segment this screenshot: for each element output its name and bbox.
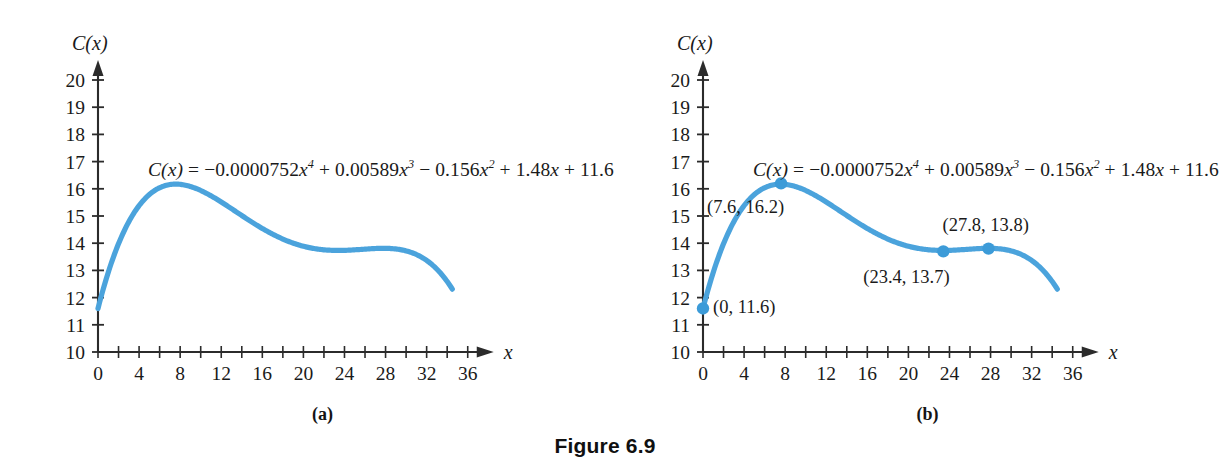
y-tick-label-11: 11 — [671, 315, 690, 336]
data-point-0[interactable] — [697, 302, 709, 314]
panel-caption-a: (a) — [0, 404, 625, 425]
equation-label-a: C(x) = −0.0000752x4 + 0.00589x3 − 0.156x… — [148, 157, 614, 181]
equation-term1-exp-a: 4 — [308, 157, 314, 171]
equation-term4-var-b: x — [1155, 159, 1164, 180]
y-tick-label-13: 13 — [671, 260, 691, 281]
x-tick-label-12: 12 — [816, 363, 836, 384]
y-tick-label-17: 17 — [66, 152, 86, 173]
equation-term2-exp-a: 3 — [408, 157, 414, 171]
equation-term1-exp-b: 4 — [913, 157, 919, 171]
equation-op1-b: + — [924, 159, 935, 180]
y-tick-label-14: 14 — [671, 233, 691, 254]
cost-curve — [98, 184, 452, 308]
x-tick-label-0: 0 — [93, 363, 103, 384]
figure-caption: Figure 6.9 — [0, 434, 1210, 458]
annotation-label-origin: (0, 11.6) — [713, 297, 776, 318]
data-point-2[interactable] — [937, 245, 949, 257]
x-tick-label-16: 16 — [858, 363, 878, 384]
equation-eq-a: = — [188, 159, 199, 180]
y-tick-label-20: 20 — [66, 70, 86, 91]
panel-a: 101112131415161718192004812162024283236C… — [0, 0, 605, 440]
annotation-label-local-min: (23.4, 13.7) — [863, 267, 949, 288]
equation-op4-a: + — [564, 159, 575, 180]
annotation-label-local-max-1: (7.6, 16.2) — [707, 197, 784, 218]
equation-term3-exp-b: 2 — [1093, 157, 1099, 171]
x-axis-arrow-icon — [477, 347, 494, 358]
y-tick-label-19: 19 — [671, 97, 691, 118]
equation-op3-a: + — [500, 159, 511, 180]
x-tick-label-16: 16 — [253, 363, 273, 384]
x-tick-label-8: 8 — [175, 363, 185, 384]
equation-term1-var-b: x — [904, 159, 913, 180]
panel-b: 101112131415161718192004812162024283236C… — [605, 0, 1210, 440]
y-tick-label-18: 18 — [671, 124, 691, 145]
y-tick-label-17: 17 — [671, 152, 691, 173]
equation-term2-var-a: x — [399, 159, 408, 180]
x-tick-label-12: 12 — [211, 363, 231, 384]
x-tick-label-24: 24 — [335, 363, 355, 384]
equation-term5-const-b: 11.6 — [1185, 159, 1219, 180]
equation-term1-coef-b: −0.0000752 — [809, 159, 904, 180]
plot-area-b: 101112131415161718192004812162024283236C… — [605, 0, 1210, 405]
y-tick-label-11: 11 — [66, 315, 85, 336]
equation-term2-exp-b: 3 — [1013, 157, 1019, 171]
equation-term2-coef-a: 0.00589 — [335, 159, 399, 180]
plot-area-a: 101112131415161718192004812162024283236C… — [0, 0, 605, 405]
y-tick-label-12: 12 — [671, 288, 691, 309]
x-tick-label-20: 20 — [294, 363, 314, 384]
x-tick-label-28: 28 — [981, 363, 1001, 384]
equation-term1-var-a: x — [299, 159, 308, 180]
equation-term4-var-a: x — [550, 159, 559, 180]
equation-eq-b: = — [793, 159, 804, 180]
y-tick-label-14: 14 — [66, 233, 86, 254]
y-tick-label-15: 15 — [671, 206, 691, 227]
equation-term2-coef-b: 0.00589 — [940, 159, 1004, 180]
equation-term4-coef-a: 1.48 — [516, 159, 551, 180]
equation-term2-var-b: x — [1004, 159, 1013, 180]
equation-op2-a: − — [419, 159, 430, 180]
y-tick-label-10: 10 — [671, 342, 691, 363]
y-axis-name: C(x) — [677, 32, 713, 55]
y-tick-label-18: 18 — [66, 124, 86, 145]
equation-op4-b: + — [1169, 159, 1180, 180]
y-axis-arrow-icon — [698, 60, 709, 76]
y-axis-name: C(x) — [72, 32, 108, 55]
equation-lhs-b: C(x) — [753, 159, 788, 180]
equation-term3-coef-b: 0.156 — [1040, 159, 1084, 180]
y-tick-label-19: 19 — [66, 97, 86, 118]
x-tick-label-8: 8 — [780, 363, 790, 384]
annotation-label-local-max-2: (27.8, 13.8) — [943, 215, 1029, 236]
equation-term3-exp-a: 2 — [488, 157, 494, 171]
equation-term1-coef-a: −0.0000752 — [204, 159, 299, 180]
x-tick-label-36: 36 — [1063, 363, 1083, 384]
equation-op3-b: + — [1105, 159, 1116, 180]
x-axis-arrow-icon — [1082, 347, 1099, 358]
y-tick-label-13: 13 — [66, 260, 86, 281]
equation-term4-coef-b: 1.48 — [1121, 159, 1156, 180]
x-tick-label-28: 28 — [376, 363, 396, 384]
x-tick-label-32: 32 — [1022, 363, 1042, 384]
x-tick-label-32: 32 — [417, 363, 437, 384]
equation-op2-b: − — [1024, 159, 1035, 180]
y-axis-arrow-icon — [93, 60, 104, 76]
x-tick-label-4: 4 — [739, 363, 749, 384]
y-tick-label-12: 12 — [66, 288, 86, 309]
y-tick-label-10: 10 — [66, 342, 86, 363]
equation-lhs-a: C(x) — [148, 159, 183, 180]
x-tick-label-4: 4 — [134, 363, 144, 384]
panel-caption-b: (b) — [605, 404, 1223, 425]
y-tick-label-20: 20 — [671, 70, 691, 91]
data-point-3[interactable] — [982, 242, 994, 254]
x-tick-label-36: 36 — [458, 363, 478, 384]
x-tick-label-20: 20 — [899, 363, 919, 384]
x-tick-label-24: 24 — [940, 363, 960, 384]
y-tick-label-16: 16 — [66, 179, 86, 200]
x-axis-name: x — [503, 341, 513, 363]
equation-op1-a: + — [319, 159, 330, 180]
equation-label-b: C(x) = −0.0000752x4 + 0.00589x3 − 0.156x… — [753, 157, 1219, 181]
x-axis-name: x — [1108, 341, 1118, 363]
y-tick-label-16: 16 — [671, 179, 691, 200]
equation-term3-coef-a: 0.156 — [435, 159, 479, 180]
x-tick-label-0: 0 — [698, 363, 708, 384]
